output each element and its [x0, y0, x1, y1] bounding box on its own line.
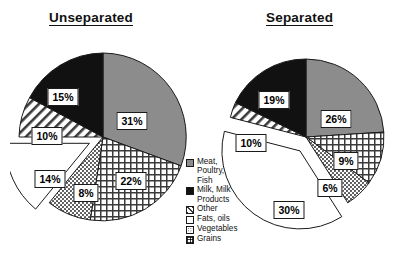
legend-label-other: Other: [197, 204, 217, 213]
legend-label-meat: Meat, Poultry, Fish: [197, 157, 224, 185]
label-meat-unseparated: 31%: [116, 112, 147, 130]
label-other-separated: 10%: [235, 134, 266, 152]
legend-swatch-grains-icon: [186, 236, 194, 244]
legend-item-meat: Meat, Poultry, Fish: [186, 157, 248, 185]
legend-label-milk: Milk, Milk Products: [197, 185, 231, 204]
label-grains-separated: 9%: [333, 152, 358, 170]
label-other-unseparated: 10%: [31, 127, 62, 145]
label-milk-separated: 19%: [258, 91, 289, 109]
label-fats-separated: 30%: [273, 201, 304, 219]
label-meat-separated: 26%: [320, 110, 351, 128]
legend-label-vegetables: Vegetables: [197, 224, 238, 233]
legend-item-milk: Milk, Milk Products: [186, 185, 248, 204]
label-vegetables-unseparated: 8%: [73, 184, 98, 202]
label-fats-unseparated: 14%: [34, 170, 65, 188]
chart-title-unseparated: Unseparated: [49, 10, 133, 25]
pie-chart-unseparated: 31% 22% 8% 14% 10% 15%: [10, 42, 200, 237]
label-vegetables-separated: 6%: [317, 179, 342, 197]
chart-legend: Meat, Poultry, Fish Milk, Milk Products …: [186, 157, 248, 244]
label-grains-unseparated: 22%: [115, 172, 146, 190]
label-milk-unseparated: 15%: [47, 88, 78, 106]
legend-swatch-meat-icon: [186, 159, 194, 167]
legend-item-vegetables: Vegetables: [186, 224, 248, 234]
chart-title-separated: Separated: [266, 10, 333, 25]
pie-chart-figure: Unseparated Separated: [0, 0, 410, 276]
legend-swatch-vegetables-icon: [186, 226, 194, 234]
legend-swatch-milk-icon: [186, 187, 194, 195]
legend-swatch-other-icon: [186, 206, 194, 214]
legend-swatch-fats-icon: [186, 216, 194, 224]
legend-item-other: Other: [186, 204, 248, 214]
legend-label-fats: Fats, oils: [197, 214, 230, 223]
legend-label-grains: Grains: [197, 234, 221, 243]
legend-item-fats: Fats, oils: [186, 214, 248, 224]
legend-item-grains: Grains: [186, 234, 248, 244]
